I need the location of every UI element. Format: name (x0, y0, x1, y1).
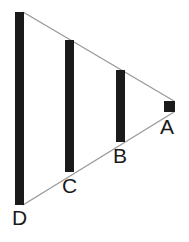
label-b: B (113, 145, 127, 166)
label-d: D (12, 207, 27, 228)
square-a (164, 101, 175, 112)
bar-d (15, 12, 24, 205)
label-a: A (160, 116, 174, 137)
bar-b (116, 70, 125, 142)
label-c: C (62, 175, 77, 196)
figure-container: D C B A (0, 0, 189, 242)
bar-c (65, 40, 74, 172)
